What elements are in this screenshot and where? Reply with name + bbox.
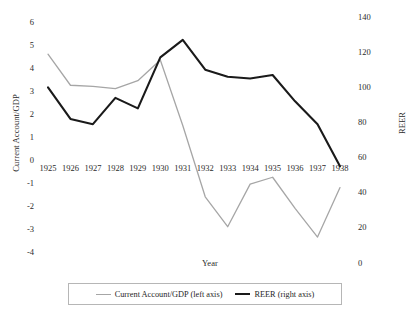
legend-label-current-account: Current Account/GDP (left axis) — [115, 290, 223, 299]
legend-label-reer: REER (right axis) — [254, 290, 314, 299]
legend-swatch-current-account-icon — [96, 294, 111, 295]
plot-area — [0, 0, 407, 313]
legend-item-reer: REER (right axis) — [235, 290, 314, 299]
series-line-current-account — [48, 54, 340, 237]
series-line-reer — [48, 40, 340, 167]
chart-legend: Current Account/GDP (left axis) REER (ri… — [68, 283, 342, 305]
chart-figure: Current Account/GDP REER Year 6543210-1-… — [0, 0, 407, 313]
legend-swatch-reer-icon — [235, 293, 250, 295]
legend-item-current-account: Current Account/GDP (left axis) — [96, 290, 223, 299]
